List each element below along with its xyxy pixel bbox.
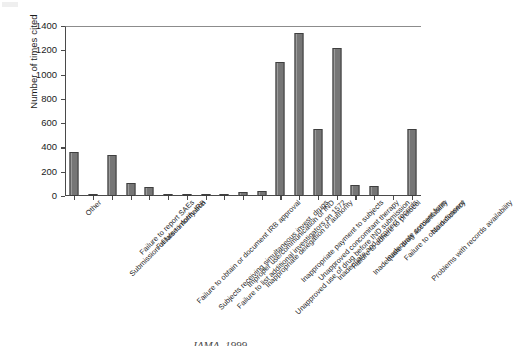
y-tick-label: 400 xyxy=(41,141,57,152)
bar-slot xyxy=(102,26,121,196)
bar-slot xyxy=(365,26,384,196)
bar-slot xyxy=(196,26,215,196)
y-tick-label: 800 xyxy=(41,93,57,104)
bar-slot xyxy=(309,26,328,196)
bar-slot xyxy=(271,26,290,196)
bar[interactable] xyxy=(351,185,360,196)
x-tick-label: Other xyxy=(84,198,104,218)
figure-caption: JAMA. 1999 xyxy=(0,335,439,346)
bar[interactable] xyxy=(126,183,135,196)
bar-series xyxy=(65,26,421,196)
y-tick-mark xyxy=(61,196,65,197)
bar-slot xyxy=(140,26,159,196)
bar-slot xyxy=(290,26,309,196)
bar-slot xyxy=(327,26,346,196)
bar[interactable] xyxy=(332,48,341,196)
bar-slot xyxy=(84,26,103,196)
bar[interactable] xyxy=(313,129,322,196)
bar-slot xyxy=(121,26,140,196)
caption-text: JAMA. 1999 xyxy=(192,339,247,346)
bar[interactable] xyxy=(145,187,154,196)
bar-slot xyxy=(159,26,178,196)
bar-slot xyxy=(252,26,271,196)
bar[interactable] xyxy=(370,186,379,196)
bar-slot xyxy=(402,26,421,196)
bar-slot xyxy=(234,26,253,196)
x-axis-labels: OtherSubmission of false informationFail… xyxy=(65,198,421,328)
bar-slot xyxy=(215,26,234,196)
bar-slot xyxy=(346,26,365,196)
y-tick-label: 600 xyxy=(41,117,57,128)
bar[interactable] xyxy=(295,33,304,196)
y-tick-label: 1000 xyxy=(36,69,57,80)
page-scan-artifact-icon xyxy=(2,2,18,7)
y-axis-ticks: 0200400600800100012001400 xyxy=(0,26,65,196)
bar[interactable] xyxy=(107,155,116,196)
y-tick-label: 0 xyxy=(52,190,57,201)
x-tick-label: Failure to report SAEs xyxy=(137,198,196,257)
bar-slot xyxy=(177,26,196,196)
y-tick-label: 1400 xyxy=(36,20,57,31)
bar[interactable] xyxy=(276,62,285,196)
bar[interactable] xyxy=(70,152,79,196)
bar-slot xyxy=(384,26,403,196)
y-tick-label: 1200 xyxy=(36,44,57,55)
bar[interactable] xyxy=(407,129,416,196)
y-tick-label: 200 xyxy=(41,166,57,177)
bar-slot xyxy=(65,26,84,196)
